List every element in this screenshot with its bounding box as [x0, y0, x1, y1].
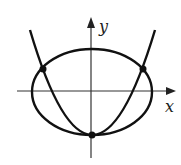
- parabola-curve: [30, 30, 155, 135]
- x-axis-label: x: [165, 97, 174, 116]
- intersection-point-right: [140, 66, 147, 73]
- x-axis-arrow-icon: [166, 87, 176, 95]
- diagram-canvas: y x: [0, 0, 181, 165]
- y-axis-arrow-icon: [87, 17, 95, 28]
- intersection-point-left: [40, 66, 47, 73]
- y-axis-label: y: [98, 17, 109, 36]
- intersection-point-bottom: [89, 132, 96, 139]
- ellipse-curve: [32, 49, 152, 135]
